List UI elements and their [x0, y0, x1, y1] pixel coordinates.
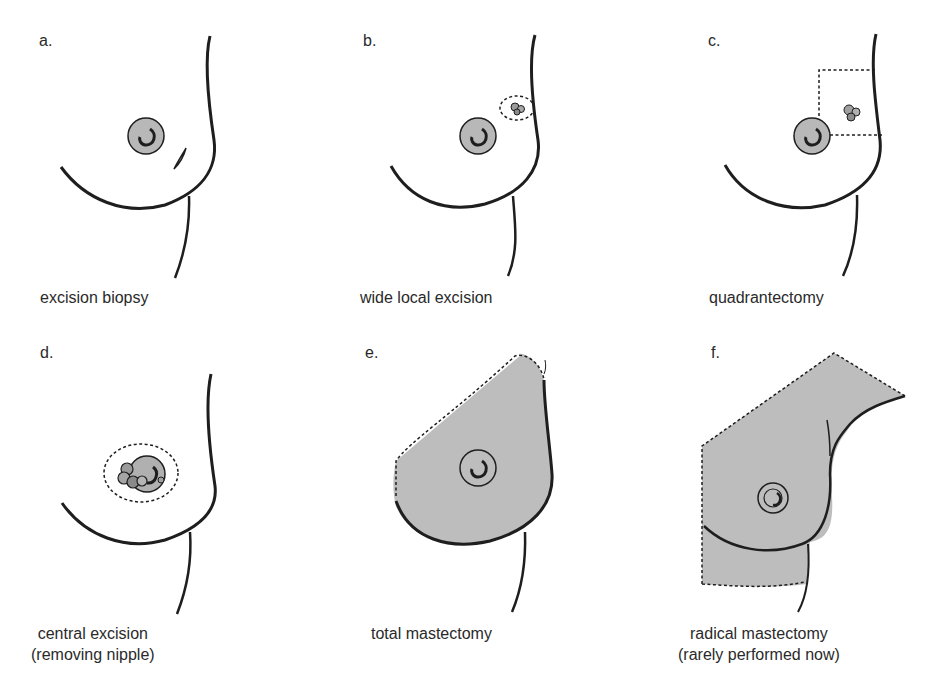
- panel-letter: d.: [40, 344, 53, 362]
- panel-caption: total mastectomy: [371, 623, 492, 644]
- caption-line: wide local excision: [360, 287, 493, 308]
- chest-wall-line: [843, 195, 857, 276]
- panel-caption: excision biopsy: [40, 287, 149, 308]
- chest-wall-line: [512, 532, 525, 612]
- panel-letter: a.: [39, 32, 52, 50]
- tumor: [844, 105, 860, 121]
- caption-line: total mastectomy: [371, 623, 492, 644]
- excision-area: [393, 353, 552, 544]
- areola: [460, 118, 496, 154]
- areola: [128, 118, 164, 154]
- panel-caption: central excision (removing nipple): [31, 623, 155, 665]
- caption-line: (rarely performed now): [678, 644, 840, 665]
- panel-caption: radical mastectomy (rarely performed now…: [678, 623, 840, 665]
- panel-letter: e.: [365, 344, 378, 362]
- caption-line: central excision: [31, 623, 155, 644]
- panel-letter: f.: [711, 344, 720, 362]
- breast-outline: [391, 35, 539, 207]
- caption-line: (removing nipple): [31, 644, 155, 665]
- excision-area: [702, 353, 905, 587]
- caption-line: quadrantectomy: [709, 287, 824, 308]
- caption-line: radical mastectomy: [678, 623, 840, 644]
- caption-line: excision biopsy: [40, 287, 149, 308]
- panel-letter: c.: [708, 32, 720, 50]
- panel-d-central-excision: d. central excision (removing nipple): [0, 346, 309, 692]
- panel-caption: wide local excision: [360, 287, 493, 308]
- panel-f-radical-mastectomy: f. radical mastectomy (rarely performed …: [620, 346, 927, 692]
- chest-wall-line: [177, 532, 190, 614]
- axilla-tick: [544, 360, 546, 374]
- panel-letter: b.: [363, 32, 376, 50]
- panel-a-excision-biopsy: a. excision biopsy: [0, 0, 309, 346]
- areola: [794, 118, 830, 154]
- biopsy-incision: [174, 148, 186, 169]
- panel-b-wide-local-excision: b. wide local excision: [310, 0, 619, 346]
- panel-e-total-mastectomy: e. total mastectomy: [310, 346, 619, 692]
- tumor: [511, 103, 525, 115]
- chest-wall-line: [508, 196, 515, 276]
- panel-caption: quadrantectomy: [709, 287, 824, 308]
- chest-wall-line: [175, 196, 189, 278]
- panel-c-quadrantectomy: c. quadrantectomy: [620, 0, 927, 346]
